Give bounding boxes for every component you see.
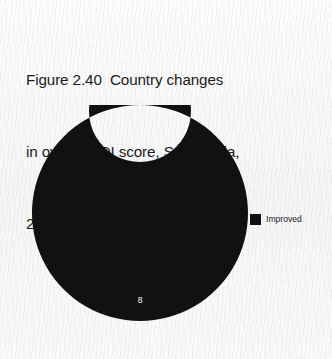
donut-chart-svg: 8	[32, 105, 248, 321]
donut-slices	[32, 105, 248, 321]
legend-swatch-icon	[250, 214, 261, 225]
figure-container: Figure 2.40 Country changes in overall Y…	[0, 0, 332, 359]
legend-item[interactable]: Improved	[250, 214, 302, 225]
chart-legend: Improved	[250, 214, 302, 225]
donut-slice	[32, 105, 248, 321]
donut-chart: 8	[32, 105, 248, 321]
legend-label: Improved	[266, 214, 302, 225]
slice-value-label: 8	[138, 295, 143, 305]
donut-value-labels: 8	[138, 295, 143, 305]
figure-title-line-1: Figure 2.40 Country changes	[26, 68, 294, 92]
